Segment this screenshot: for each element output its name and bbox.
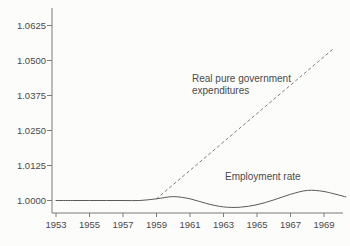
y-tick-label: 1.0500: [17, 55, 46, 66]
x-tick-label: 1965: [246, 219, 267, 230]
gov-expenditures-label: expenditures: [192, 85, 249, 96]
x-tick-label: 1969: [313, 219, 334, 230]
x-tick-label: 1957: [112, 219, 133, 230]
gov-expenditures-label: Real pure government: [192, 73, 291, 84]
employment-rate-label: Employment rate: [225, 171, 301, 182]
x-tick-label: 1959: [146, 219, 167, 230]
x-tick-label: 1955: [79, 219, 100, 230]
y-tick-label: 1.0375: [17, 90, 46, 101]
x-tick-label: 1961: [179, 219, 200, 230]
x-tick-label: 1963: [213, 219, 234, 230]
y-tick-label: 1.0625: [17, 20, 46, 31]
series-line-employment-rate: [56, 190, 346, 207]
y-tick-label: 1.0250: [17, 125, 46, 136]
x-tick-label: 1953: [45, 219, 66, 230]
y-tick-label: 1.0000: [17, 195, 46, 206]
line-chart: 1.00001.01251.02501.03751.05001.06251953…: [0, 0, 350, 246]
figure-employment-vs-gov-expenditures: 1.00001.01251.02501.03751.05001.06251953…: [0, 0, 350, 246]
x-tick-label: 1967: [280, 219, 301, 230]
y-tick-label: 1.0125: [17, 160, 46, 171]
